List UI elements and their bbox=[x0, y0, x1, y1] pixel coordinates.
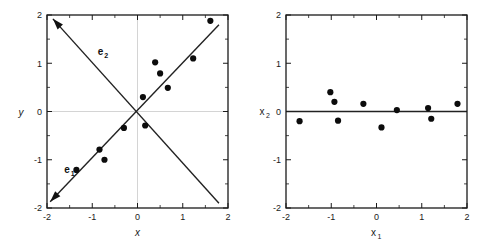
chart-panel-right: -2-1012-2-1012x1x2 bbox=[248, 0, 496, 243]
data-point[interactable] bbox=[157, 70, 163, 76]
y-tick-label: 1 bbox=[276, 59, 281, 69]
data-point[interactable] bbox=[73, 167, 79, 173]
x-tick-label: 1 bbox=[180, 212, 185, 222]
x-tick-label: 1 bbox=[419, 212, 424, 222]
eigenvector-label-sub-e2: 2 bbox=[104, 52, 108, 59]
plot-group: -2-1012-2-1012x1x2 bbox=[260, 10, 470, 240]
data-point[interactable] bbox=[96, 147, 102, 153]
x-tick-label: -1 bbox=[327, 212, 335, 222]
data-point[interactable] bbox=[378, 124, 384, 130]
data-point[interactable] bbox=[327, 89, 333, 95]
x-tick-label: -2 bbox=[43, 212, 51, 222]
data-points bbox=[296, 89, 460, 130]
x-tick-label: 2 bbox=[225, 212, 230, 222]
data-point[interactable] bbox=[331, 99, 337, 105]
data-point[interactable] bbox=[140, 94, 146, 100]
y-tick-label: -2 bbox=[273, 203, 281, 213]
data-point[interactable] bbox=[142, 122, 148, 128]
data-point[interactable] bbox=[190, 55, 196, 61]
x-tick-label: -1 bbox=[88, 212, 96, 222]
scatter-plot-right: -2-1012-2-1012x1x2 bbox=[248, 0, 496, 243]
y-tick-label: 2 bbox=[37, 10, 42, 20]
plot-group: e1e2-2-1012-2-1012xy bbox=[18, 10, 231, 238]
y-axis-title: x bbox=[260, 106, 265, 117]
data-point[interactable] bbox=[121, 125, 127, 131]
y-tick-label: 0 bbox=[276, 107, 281, 117]
eigenvector-line-e2 bbox=[53, 19, 219, 203]
data-point[interactable] bbox=[101, 157, 107, 163]
data-point[interactable] bbox=[335, 118, 341, 124]
data-points bbox=[73, 18, 213, 173]
x-tick-label: 0 bbox=[135, 212, 140, 222]
eigenvector-label-e2: e bbox=[98, 46, 104, 57]
x-tick-label: -2 bbox=[282, 212, 290, 222]
y-tick-label: 2 bbox=[276, 10, 281, 20]
data-point[interactable] bbox=[425, 105, 431, 111]
y-tick-label: -1 bbox=[34, 155, 42, 165]
data-point[interactable] bbox=[296, 118, 302, 124]
eigenvector-label-e1: e bbox=[64, 164, 70, 175]
data-point[interactable] bbox=[165, 85, 171, 91]
scatter-plot-left: e1e2-2-1012-2-1012xy bbox=[0, 0, 248, 243]
chart-panel-left: e1e2-2-1012-2-1012xy bbox=[0, 0, 248, 243]
data-point[interactable] bbox=[360, 101, 366, 107]
y-axis-title: y bbox=[18, 107, 25, 118]
x-axis-title-subscript: 1 bbox=[378, 233, 382, 240]
data-point[interactable] bbox=[428, 116, 434, 122]
figure-root: e1e2-2-1012-2-1012xy -2-1012-2-1012x1x2 bbox=[0, 0, 496, 243]
data-point[interactable] bbox=[207, 18, 213, 24]
data-point[interactable] bbox=[152, 59, 158, 65]
x-axis-title: x bbox=[134, 227, 141, 238]
x-tick-label: 2 bbox=[464, 212, 469, 222]
y-tick-label: 0 bbox=[37, 107, 42, 117]
x-tick-label: 0 bbox=[374, 212, 379, 222]
y-tick-label: 1 bbox=[37, 59, 42, 69]
y-axis-title-subscript: 2 bbox=[266, 112, 270, 119]
data-point[interactable] bbox=[394, 107, 400, 113]
x-axis-title: x bbox=[371, 227, 376, 238]
y-tick-label: -2 bbox=[34, 203, 42, 213]
y-tick-label: -1 bbox=[273, 155, 281, 165]
data-point[interactable] bbox=[454, 101, 460, 107]
